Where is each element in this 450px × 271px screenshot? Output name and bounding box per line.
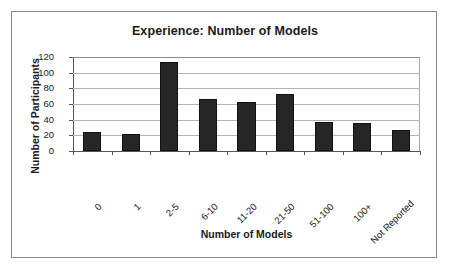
y-tick-mark xyxy=(69,104,73,105)
gridline xyxy=(73,151,420,152)
bar xyxy=(83,132,101,151)
y-tick-label: 0 xyxy=(14,146,54,156)
y-tick-mark xyxy=(69,88,73,89)
plot-area: 020406080100120 012-56-1011-2021-5051-10… xyxy=(73,57,420,151)
x-tick-mark xyxy=(112,151,113,155)
x-tick-mark xyxy=(73,151,74,155)
x-tick-mark xyxy=(227,151,228,155)
chart-figure: Experience: Number of Models Number of P… xyxy=(11,11,437,258)
y-tick-label: 40 xyxy=(14,115,54,125)
x-tick-mark xyxy=(343,151,344,155)
x-tick-mark xyxy=(266,151,267,155)
y-tick-label: 120 xyxy=(14,52,54,62)
bar xyxy=(122,134,140,151)
x-tick-mark xyxy=(150,151,151,155)
bar xyxy=(237,102,255,151)
y-tick-label: 60 xyxy=(14,99,54,109)
y-tick-mark xyxy=(69,73,73,74)
y-tick-label: 20 xyxy=(14,130,54,140)
y-tick-mark xyxy=(69,135,73,136)
y-tick-mark xyxy=(69,120,73,121)
gridline xyxy=(73,73,420,74)
y-tick-mark xyxy=(69,57,73,58)
bar xyxy=(199,99,217,151)
y-tick-label: 80 xyxy=(14,83,54,93)
bar xyxy=(160,62,178,151)
bar xyxy=(276,94,294,151)
x-tick-mark xyxy=(304,151,305,155)
x-tick-mark xyxy=(381,151,382,155)
gridline xyxy=(73,57,420,58)
y-tick-label: 100 xyxy=(14,68,54,78)
gridline xyxy=(73,88,420,89)
bar xyxy=(392,130,410,151)
bar xyxy=(315,122,333,151)
bar xyxy=(353,123,371,151)
x-tick-mark xyxy=(189,151,190,155)
chart-title: Experience: Number of Models xyxy=(12,24,438,38)
x-tick-mark xyxy=(420,151,421,155)
